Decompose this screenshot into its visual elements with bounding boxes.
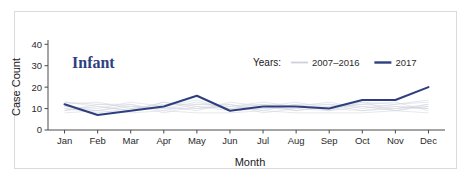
x-axis-title: Month <box>235 156 266 168</box>
y-tick-labels: 010203040 <box>31 39 48 136</box>
y-tick-label: 10 <box>31 103 42 114</box>
background-series-group <box>65 100 429 113</box>
chart-legend: Years: 2007–20162017 <box>253 57 417 68</box>
x-tick-label: Mar <box>123 135 139 146</box>
legend-label-2017: 2017 <box>395 57 416 68</box>
x-tick-label: May <box>188 135 206 146</box>
x-tick-label: Dec <box>420 135 437 146</box>
x-tick-label: Oct <box>355 135 370 146</box>
x-tick-labels: JanFebMarAprMayJunJulAugSepOctNovDec <box>57 130 437 146</box>
line-chart-svg: 010203040 JanFebMarAprMayJunJulAugSepOct… <box>0 0 472 178</box>
plot-area: 010203040 JanFebMarAprMayJunJulAugSepOct… <box>0 0 472 178</box>
x-tick-label: Jul <box>257 135 269 146</box>
y-tick-label: 0 <box>37 124 42 135</box>
y-tick-label: 40 <box>31 39 42 50</box>
y-axis-title: Case Count <box>10 58 22 116</box>
y-tick-label: 20 <box>31 82 42 93</box>
x-tick-label: Feb <box>89 135 105 146</box>
main-series-2017 <box>65 87 429 115</box>
x-tick-label: Jun <box>222 135 237 146</box>
x-tick-label: Apr <box>156 135 171 146</box>
y-tick-label: 30 <box>31 60 42 71</box>
x-tick-label: Jan <box>57 135 72 146</box>
chart-figure: 010203040 JanFebMarAprMayJunJulAugSepOct… <box>0 0 472 178</box>
x-tick-label: Aug <box>288 135 305 146</box>
x-tick-label: Nov <box>387 135 404 146</box>
legend-label-2007-2016: 2007–2016 <box>312 57 360 68</box>
legend-title: Years: <box>253 57 281 68</box>
series-line-2017 <box>65 87 429 115</box>
x-tick-label: Sep <box>321 135 338 146</box>
panel-title: Infant <box>72 54 115 71</box>
